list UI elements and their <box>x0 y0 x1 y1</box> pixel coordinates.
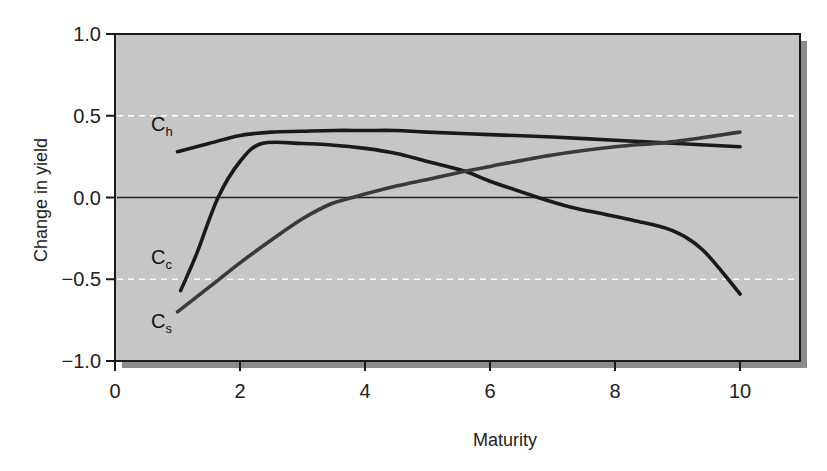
y-axis-title: Change in yield <box>31 138 51 262</box>
y-tick-label: 0.0 <box>73 187 101 209</box>
y-tick-label: −0.5 <box>62 268 101 290</box>
y-axis: 1.00.50.0−0.5−1.0 <box>62 23 115 372</box>
x-axis-title: Maturity <box>473 430 537 450</box>
x-tick-label: 4 <box>359 380 370 402</box>
y-tick-label: 1.0 <box>73 23 101 45</box>
x-tick-label: 0 <box>109 380 120 402</box>
y-tick-label: −1.0 <box>62 350 101 372</box>
chart: ChCcCs 1.00.50.0−0.5−1.0 0246810 Maturit… <box>0 0 827 471</box>
x-tick-label: 6 <box>484 380 495 402</box>
x-tick-label: 10 <box>729 380 751 402</box>
x-tick-label: 2 <box>234 380 245 402</box>
x-tick-label: 8 <box>609 380 620 402</box>
y-tick-label: 0.5 <box>73 105 101 127</box>
